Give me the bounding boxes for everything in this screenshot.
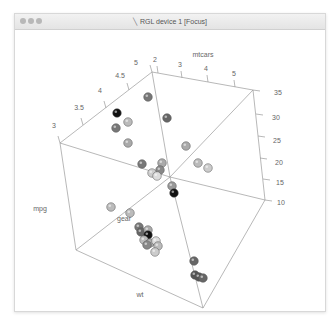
data-point: [126, 209, 135, 218]
data-point: [143, 241, 152, 250]
point-highlight: [170, 184, 173, 187]
gear-tick-4.5: 4.5: [115, 72, 125, 79]
mpg-axis-labels: 35 30 25 20 15 10: [272, 89, 285, 206]
data-point: [182, 142, 191, 151]
point-highlight: [153, 250, 156, 253]
point-highlight: [165, 116, 168, 119]
point-highlight: [193, 273, 196, 276]
point-highlight: [126, 141, 129, 144]
data-point: [163, 114, 172, 123]
wt-axis-ticks: [157, 66, 235, 87]
point-highlight: [146, 228, 149, 231]
gear-tick-3.5: 3.5: [74, 104, 84, 111]
mpg-tick-35: 35: [274, 89, 282, 96]
mpg-axis-ticks: [253, 90, 272, 201]
mpg-tick-15: 15: [276, 179, 284, 186]
point-highlight: [146, 233, 149, 236]
point-highlight: [172, 191, 175, 194]
data-point: [151, 248, 160, 257]
point-highlight: [115, 111, 118, 114]
point-highlight: [156, 244, 159, 247]
wt-tick-3: 3: [178, 61, 182, 68]
point-highlight: [150, 171, 153, 174]
data-point: [144, 93, 153, 102]
point-highlight: [146, 95, 149, 98]
data-point: [153, 172, 162, 181]
mpg-tick-10: 10: [277, 199, 285, 206]
point-highlight: [196, 161, 199, 164]
mpg-axis-title: mpg: [33, 205, 47, 213]
data-point: [204, 164, 213, 173]
wt-tick-2: 2: [153, 56, 157, 63]
point-highlight: [114, 126, 117, 129]
point-highlight: [206, 166, 209, 169]
mpg-tick-20: 20: [275, 159, 283, 166]
point-highlight: [140, 162, 143, 165]
data-point: [124, 118, 133, 127]
point-highlight: [154, 239, 157, 242]
data-point: [199, 274, 208, 283]
point-highlight: [158, 168, 161, 171]
point-highlight: [184, 144, 187, 147]
data-point: [190, 257, 199, 266]
data-point: [194, 159, 203, 168]
mpg-tick-30: 30: [272, 114, 280, 121]
data-point: [107, 203, 116, 212]
data-point: [113, 109, 122, 118]
scatter-points: [107, 93, 213, 283]
point-highlight: [142, 238, 145, 241]
point-highlight: [139, 230, 142, 233]
data-point: [170, 189, 179, 198]
plot-title: mtcars: [193, 51, 215, 58]
wt-axis-title: wt: [136, 291, 144, 298]
point-highlight: [128, 211, 131, 214]
gear-tick-4: 4: [98, 87, 102, 94]
wt-tick-5: 5: [232, 70, 236, 77]
point-highlight: [137, 225, 140, 228]
data-point: [112, 124, 121, 133]
point-highlight: [109, 205, 112, 208]
gear-tick-5: 5: [134, 59, 138, 66]
wt-tick-4: 4: [204, 65, 208, 72]
data-point: [124, 139, 133, 148]
point-highlight: [155, 174, 158, 177]
bounding-box: [60, 72, 265, 308]
rgl-3d-scatter-canvas[interactable]: 3 3.5 4 4.5 5 2 3 4 5 35 30 25 20 15 10 …: [0, 0, 334, 323]
point-highlight: [160, 161, 163, 164]
mpg-tick-25: 25: [273, 137, 281, 144]
point-highlight: [145, 243, 148, 246]
point-highlight: [192, 259, 195, 262]
gear-tick-3: 3: [52, 122, 56, 129]
gear-axis-ticks: [58, 65, 152, 143]
data-point: [138, 160, 147, 169]
point-highlight: [126, 120, 129, 123]
wt-axis-labels: 2 3 4 5: [153, 56, 236, 77]
point-highlight: [201, 276, 204, 279]
